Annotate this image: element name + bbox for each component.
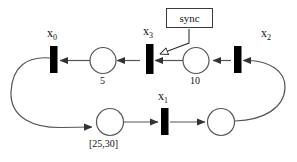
place-p5 [90, 48, 116, 74]
sync-leader-line [160, 29, 189, 54]
transition-x3 [146, 44, 154, 74]
sync-callout-box: sync [166, 8, 213, 28]
transition-label-x1: x1 [158, 90, 168, 102]
place-p2530 [97, 109, 124, 136]
transition-label-x1-sub: 1 [164, 96, 168, 105]
transition-label-x2: x2 [261, 27, 271, 39]
transition-label-x0-sub: 0 [53, 33, 57, 42]
place-label-p10: 10 [190, 76, 200, 86]
place-label-p2530: [25,30] [89, 139, 118, 149]
petri-net-diagram: sync x0 x3 x2 x1 5 10 [25,30] [0, 0, 297, 162]
place-p10 [183, 48, 209, 74]
sync-label: sync [179, 13, 199, 24]
transition-label-x3-sub: 3 [149, 31, 153, 40]
arc-pempty-to-x2 [235, 61, 285, 122]
transition-x2 [234, 46, 242, 73]
transition-label-x2-sub: 2 [267, 33, 271, 42]
place-label-p5: 5 [100, 76, 105, 86]
place-p-empty [208, 109, 235, 136]
transition-label-x0: x0 [47, 27, 57, 39]
transition-x1 [161, 108, 169, 135]
transition-label-x3: x3 [143, 25, 153, 37]
transition-x0 [50, 46, 58, 73]
